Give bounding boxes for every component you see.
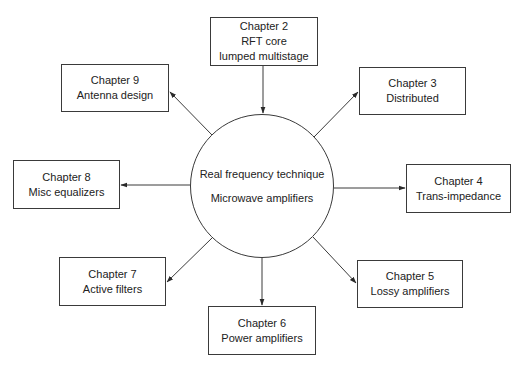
chapter-3-box: Chapter 3 Distributed — [359, 67, 466, 115]
chapter-title: Chapter 3 — [388, 76, 436, 91]
center-topic-circle: Real frequency technique Microwave ampli… — [190, 114, 334, 258]
chapter-5-box: Chapter 5 Lossy amplifiers — [357, 260, 463, 308]
chapter-subtitle: Trans-impedance — [416, 189, 501, 204]
chapter-title: Chapter 7 — [88, 267, 136, 282]
chapter-2-box: Chapter 2 RFT core lumped multistage — [210, 17, 318, 66]
chapter-7-box: Chapter 7 Active filters — [59, 257, 166, 306]
chapter-subtitle: Distributed — [386, 91, 439, 106]
arrow-center-to-ch7 — [167, 238, 212, 282]
arrow-center-to-ch3 — [314, 92, 358, 137]
chapter-8-box: Chapter 8 Misc equalizers — [13, 160, 120, 209]
chapter-subtitle: Power amplifiers — [221, 331, 302, 346]
chapter-subtitle: Active filters — [83, 282, 142, 297]
chapter-title: Chapter 9 — [91, 73, 139, 88]
arrow-center-to-ch9 — [170, 92, 212, 135]
arrow-center-to-ch5 — [313, 237, 356, 283]
chapter-title: Chapter 6 — [238, 316, 286, 331]
center-line-2: Microwave amplifiers — [211, 186, 314, 210]
chapter-title: Chapter 8 — [42, 170, 90, 185]
chapter-9-box: Chapter 9 Antenna design — [61, 64, 169, 112]
chapter-subtitle: Misc equalizers — [29, 185, 105, 200]
chapter-subtitle: Antenna design — [77, 88, 153, 103]
center-line-1: Real frequency technique — [200, 162, 325, 186]
chapter-subtitle: lumped multistage — [219, 49, 308, 64]
chapter-title: Chapter 2 — [240, 19, 288, 34]
chapter-6-box: Chapter 6 Power amplifiers — [208, 306, 316, 355]
chapter-title: Chapter 4 — [434, 174, 482, 189]
chapter-4-box: Chapter 4 Trans-impedance — [406, 164, 511, 213]
chapter-subtitle: RFT core — [241, 34, 287, 49]
chapter-subtitle: Lossy amplifiers — [371, 284, 450, 299]
chapter-title: Chapter 5 — [386, 269, 434, 284]
